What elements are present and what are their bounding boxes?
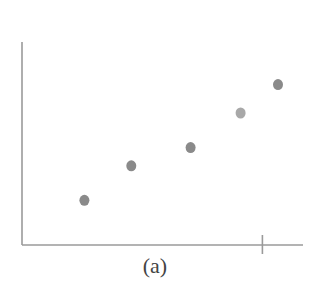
data-point [236, 108, 246, 119]
figure-caption: (a) [0, 253, 310, 279]
data-points [79, 79, 283, 206]
data-point [186, 142, 196, 153]
data-point [273, 79, 283, 90]
data-point [79, 195, 89, 206]
data-point [126, 160, 136, 171]
